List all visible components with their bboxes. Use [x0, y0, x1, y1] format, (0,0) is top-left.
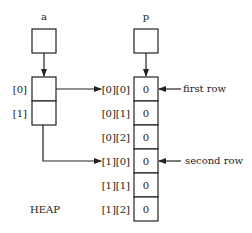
two-d-array-heap-diagram: a [0] [1] p 0 0 0 0 0 0 [0][0] [0][1] [0… [0, 0, 252, 233]
second-row-label: second row [185, 155, 243, 166]
pointer-p-label: p [143, 11, 149, 22]
heap-value-1-0: 0 [143, 156, 149, 167]
heap-index-1-0: [1][0] [102, 156, 130, 167]
row-pointer-cell-1 [32, 101, 56, 125]
pointer-p-box [134, 29, 158, 53]
row-pointer-index-1: [1] [13, 108, 27, 119]
heap-index-0-1: [0][1] [102, 108, 130, 119]
arrow-row1-to-heap [43, 125, 101, 161]
heap-index-0-0: [0][0] [102, 84, 130, 95]
heap-value-0-2: 0 [143, 132, 149, 143]
heap-value-0-1: 0 [143, 108, 149, 119]
pointer-a-label: a [41, 11, 47, 22]
heap-index-1-2: [1][2] [102, 204, 130, 215]
heap-label: HEAP [30, 204, 60, 215]
heap-array: 0 0 0 0 0 0 [0][0] [0][1] [0][2] [1][0] … [102, 77, 158, 221]
heap-value-0-0: 0 [143, 84, 149, 95]
row-pointer-cell-0 [32, 77, 56, 101]
heap-value-1-1: 0 [143, 180, 149, 191]
heap-index-1-1: [1][1] [102, 180, 130, 191]
first-row-label: first row [183, 83, 227, 94]
pointer-a-box [32, 29, 56, 53]
heap-value-1-2: 0 [143, 204, 149, 215]
row-pointer-index-0: [0] [13, 84, 27, 95]
heap-index-0-2: [0][2] [102, 132, 130, 143]
